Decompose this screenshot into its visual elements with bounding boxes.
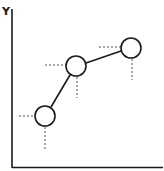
diagram-canvas (0, 0, 164, 171)
connector-p1-p2 (51, 75, 70, 107)
data-points (35, 38, 141, 126)
connector-p2-p3 (86, 51, 121, 63)
point-circle-2 (66, 56, 86, 76)
point-circle-1 (35, 106, 55, 126)
diagram: Y (0, 0, 164, 171)
connecting-lines (51, 51, 121, 107)
point-circle-3 (121, 38, 141, 58)
